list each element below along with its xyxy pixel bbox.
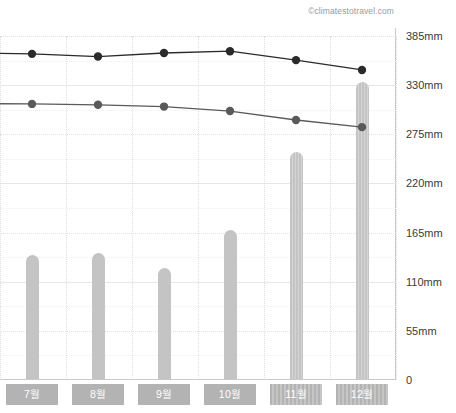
y-axis-tick: 330mm: [406, 79, 443, 91]
x-axis-label-11월[interactable]: 11월: [270, 384, 322, 405]
bar-7월[interactable]: [26, 255, 39, 380]
y-axis-tick: 165mm: [406, 227, 443, 239]
x-axis-label-12월[interactable]: 12월: [336, 384, 388, 405]
x-axis-label-7월[interactable]: 7월: [6, 384, 58, 405]
marker-upper-12월[interactable]: [358, 66, 366, 74]
gridline-vertical: [198, 36, 199, 380]
gridline-vertical: [330, 36, 331, 380]
plot-inner: [0, 36, 396, 380]
y-axis-tick: 0: [406, 374, 412, 386]
marker-lower-10월[interactable]: [226, 107, 234, 115]
marker-upper-10월[interactable]: [226, 47, 234, 55]
plot-area: [0, 28, 396, 380]
bar-8월[interactable]: [92, 253, 105, 380]
gridline-vertical: [396, 36, 397, 380]
gridline-vertical: [66, 36, 67, 380]
attribution-label: ©climatestotravel.com: [308, 6, 394, 16]
marker-lower-11월[interactable]: [292, 116, 300, 124]
marker-upper-7월[interactable]: [28, 50, 36, 58]
bar-11월[interactable]: [290, 152, 303, 380]
y-axis-tick: 110mm: [406, 276, 442, 288]
bar-10월[interactable]: [224, 230, 237, 380]
gridline-vertical: [132, 36, 133, 380]
y-axis-tick: 55mm: [406, 325, 437, 337]
precipitation-chart: ©climatestotravel.com 385mm330mm275mm220…: [0, 0, 456, 413]
gridline-vertical: [264, 36, 265, 380]
marker-lower-7월[interactable]: [28, 100, 36, 108]
line-lower: [0, 104, 362, 127]
x-axis-label-9월[interactable]: 9월: [138, 384, 190, 405]
bar-12월[interactable]: [356, 82, 369, 380]
y-axis-tick: 275mm: [406, 128, 443, 140]
marker-lower-8월[interactable]: [94, 101, 102, 109]
x-axis-label-10월[interactable]: 10월: [204, 384, 256, 405]
bar-9월[interactable]: [158, 268, 171, 380]
marker-upper-8월[interactable]: [94, 52, 102, 60]
gridline-vertical: [0, 36, 1, 380]
y-axis-tick: 385mm: [406, 30, 443, 42]
y-axis-tick: 220mm: [406, 177, 443, 189]
y-axis: 385mm330mm275mm220mm165mm110mm55mm0: [398, 28, 456, 380]
marker-upper-9월[interactable]: [160, 49, 168, 57]
x-axis-baseline: [0, 379, 396, 380]
x-axis: 7월8월9월10월11월12월: [0, 384, 396, 413]
x-axis-label-8월[interactable]: 8월: [72, 384, 124, 405]
